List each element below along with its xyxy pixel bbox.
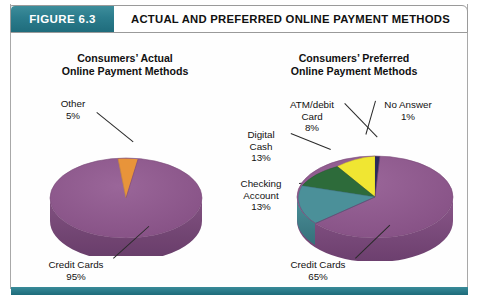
- callout-credit-cards-preferred-name: Credit Cards: [291, 259, 346, 270]
- callout-credit-cards-preferred: Credit Cards 65%: [275, 259, 361, 282]
- callout-credit-cards-actual-name: Credit Cards: [49, 259, 104, 270]
- callout-digital-line2: Cash: [233, 141, 289, 153]
- pie-chart-preferred: [291, 141, 459, 261]
- callout-atm-debit-card: ATM/debit Card 8%: [281, 99, 343, 134]
- chart-title-actual-line1: Consumers’ Actual: [77, 52, 173, 64]
- callout-checking-account: Checking Account 13%: [225, 178, 297, 213]
- callout-credit-cards-preferred-pct: 65%: [275, 271, 361, 283]
- figure-title: ACTUAL AND PREFERRED ONLINE PAYMENT METH…: [114, 6, 467, 32]
- callout-credit-cards-actual: Credit Cards 95%: [33, 259, 119, 282]
- chart-title-preferred-line1: Consumers’ Preferred: [299, 52, 410, 64]
- callout-no-answer: No Answer 1%: [375, 99, 441, 122]
- callout-no-answer-pct: 1%: [375, 111, 441, 123]
- callout-digital-line1: Digital: [247, 129, 274, 140]
- pie-chart-actual: [46, 141, 206, 256]
- figure-header: FIGURE 6.3 ACTUAL AND PREFERRED ONLINE P…: [10, 5, 468, 33]
- callout-atm-line1: ATM/debit: [290, 99, 334, 110]
- figure-bottom-rule: [11, 287, 468, 295]
- chart-panel-actual: Consumers’ Actual Online Payment Methods…: [11, 33, 239, 283]
- chart-panel-preferred: Consumers’ Preferred Online Payment Meth…: [239, 33, 469, 283]
- figure-body: Consumers’ Actual Online Payment Methods…: [10, 33, 468, 283]
- chart-title-preferred: Consumers’ Preferred Online Payment Meth…: [239, 52, 469, 78]
- figure-number-tab: FIGURE 6.3: [11, 6, 114, 32]
- chart-title-preferred-line2: Online Payment Methods: [291, 65, 418, 77]
- callout-atm-line2: Card: [281, 111, 343, 123]
- chart-title-actual: Consumers’ Actual Online Payment Methods: [11, 52, 239, 78]
- chart-title-actual-line2: Online Payment Methods: [62, 65, 189, 77]
- leader-line-other: [96, 112, 133, 142]
- callout-checking-line1: Checking: [241, 178, 282, 189]
- callout-no-answer-name: No Answer: [384, 99, 431, 110]
- callout-credit-cards-actual-pct: 95%: [33, 271, 119, 283]
- callout-digital-pct: 13%: [233, 152, 289, 164]
- figure-number-label: FIGURE 6.3: [29, 13, 96, 25]
- callout-other-name: Other: [61, 98, 86, 109]
- pie-preferred-svg: [291, 141, 459, 261]
- callout-checking-pct: 13%: [225, 201, 297, 213]
- callout-checking-line2: Account: [225, 190, 297, 202]
- callout-other: Other 5%: [47, 98, 99, 121]
- callout-other-pct: 5%: [47, 110, 99, 122]
- callout-digital-cash: Digital Cash 13%: [233, 129, 289, 164]
- pie-actual-svg: [46, 141, 206, 256]
